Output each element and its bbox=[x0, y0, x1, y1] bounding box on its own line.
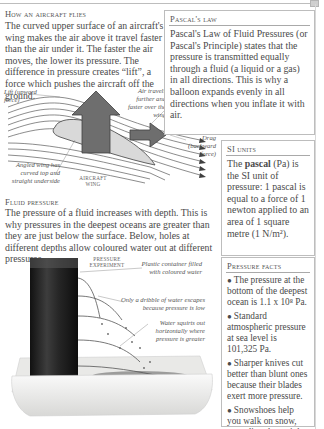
fact-text: Standard atmospheric pressure at sea lev… bbox=[227, 311, 306, 354]
drag-label: Drag (backward force) bbox=[176, 134, 216, 158]
si-units-box: SI units The pascal (Pa) is the SI unit … bbox=[221, 140, 315, 256]
fact-item: ● The pressure at the bottom of the deep… bbox=[227, 275, 309, 308]
fact-text: Snowshoes help you walk on snow, spreadi… bbox=[227, 405, 304, 429]
pressure-facts-heading: Pressure facts bbox=[222, 258, 314, 272]
si-text-pascal: pascal bbox=[245, 158, 271, 169]
pressure-facts-box: Pressure facts ● The pressure at the bot… bbox=[221, 257, 315, 427]
pascals-law-text: Pascal's Law of Fluid Pressures (or Pasc… bbox=[165, 28, 314, 121]
fluid-pressure-heading: Fluid pressure bbox=[5, 197, 59, 207]
divider bbox=[226, 155, 310, 156]
squirts-label: Water squirts out horizontally where pre… bbox=[145, 319, 205, 343]
fact-item: ● Sharper knives cut better than blunt o… bbox=[227, 358, 309, 402]
pascals-law-heading: Pascal's law bbox=[165, 11, 314, 25]
fact-text: Sharper knives cut better than blunt one… bbox=[227, 358, 307, 401]
fact-item: ● Standard atmospheric pressure at sea l… bbox=[227, 311, 309, 355]
bullet-icon: ● bbox=[227, 312, 234, 321]
bullet-icon: ● bbox=[227, 406, 234, 415]
divider bbox=[169, 25, 310, 26]
angled-wing-label: Angled wing has curved top and straight … bbox=[4, 161, 60, 185]
dribble-label: Only a dribble of water escapes because … bbox=[115, 296, 205, 312]
divider bbox=[226, 272, 310, 273]
bullet-icon: ● bbox=[227, 276, 234, 285]
top-rule bbox=[0, 3, 312, 4]
aircraft-heading: How an aircraft flies bbox=[5, 9, 86, 19]
container-label: Plastic container filled with coloured w… bbox=[138, 260, 202, 276]
fact-item: ● Snowshoes help you walk on snow, sprea… bbox=[227, 405, 309, 429]
pascals-law-box: Pascal's law Pascal's Law of Fluid Press… bbox=[164, 10, 315, 135]
pressure-experiment-photo: Pressure experiment Plastic container fi… bbox=[0, 258, 220, 429]
right-margin-rule bbox=[315, 4, 316, 429]
lift-label: Lift (upward force) bbox=[4, 88, 49, 104]
bullet-icon: ● bbox=[227, 359, 234, 368]
pressure-experiment-label: Pressure experiment bbox=[84, 256, 130, 268]
aircraft-wing-label: Aircraft wing bbox=[76, 175, 110, 187]
si-units-text: The pascal (Pa) is the SI unit of pressu… bbox=[222, 158, 314, 239]
water-container bbox=[30, 258, 78, 382]
si-text-suffix: (Pa) is the SI unit of pressure: 1 pasca… bbox=[227, 158, 309, 239]
pressure-facts-list: ● The pressure at the bottom of the deep… bbox=[222, 275, 314, 429]
fact-text: The pressure at the bottom of the deepes… bbox=[227, 275, 307, 307]
tray bbox=[12, 374, 213, 416]
si-text-prefix: The bbox=[227, 158, 245, 169]
si-units-heading: SI units bbox=[222, 141, 314, 155]
air-travels-label: Air travels further and faster over the … bbox=[126, 87, 166, 119]
pressure-experiment-illustration bbox=[0, 258, 220, 429]
